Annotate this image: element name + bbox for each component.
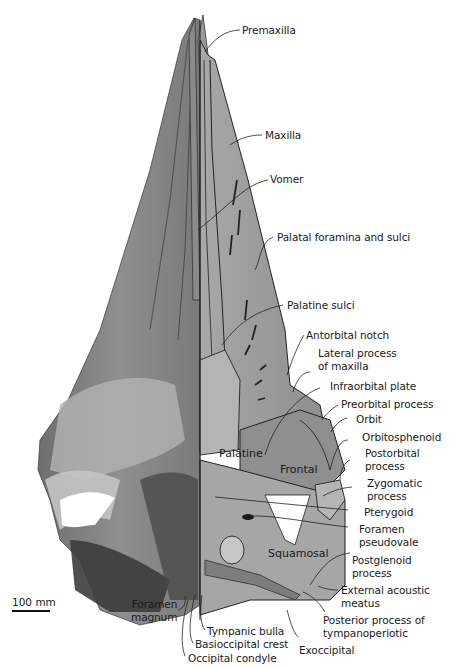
label-orbitosphenoid: Orbitosphenoid (362, 431, 441, 444)
label-vomer: Vomer (270, 173, 303, 186)
label-basioccipital-crest: Basioccipital crest (195, 638, 288, 651)
label-palatal-foramina: Palatal foramina and sulci (277, 231, 410, 244)
label-postorbital-process: Postorbital process (365, 447, 420, 472)
label-frontal: Frontal (280, 463, 318, 476)
label-pterygoid: Pterygoid (364, 506, 413, 519)
label-orbit: Orbit (356, 413, 382, 426)
label-premaxilla: Premaxilla (242, 24, 296, 37)
label-postglenoid-process: Postglenoid process (352, 554, 412, 579)
skull-diagram: Palatine Frontal Squamosal Premaxilla Ma… (0, 0, 455, 668)
label-external-acoustic-meatus: External acoustic meatus (341, 584, 430, 609)
illustration-right-half (189, 15, 345, 620)
label-foramen-pseudovale: Foramen pseudovale (359, 523, 418, 548)
label-foramen-magnum: Foramen magnum (131, 598, 177, 623)
label-squamosal: Squamosal (268, 547, 329, 560)
label-posterior-process: Posterior process of tympanoperiotic (323, 614, 425, 639)
label-exoccipital: Exoccipital (299, 644, 354, 657)
label-antorbital-notch: Antorbital notch (306, 329, 389, 342)
label-preorbital-process: Preorbital process (341, 398, 433, 411)
label-zygomatic-process: Zygomatic process (367, 477, 422, 502)
scale-bar (12, 610, 50, 612)
label-occipital-condyle: Occipital condyle (188, 652, 277, 665)
label-lateral-process: Lateral process of maxilla (318, 347, 397, 372)
label-maxilla: Maxilla (265, 129, 301, 142)
label-palatine: Palatine (219, 447, 263, 460)
scale-bar-label: 100 mm (12, 596, 56, 608)
label-tympanic-bulla: Tympanic bulla (207, 625, 284, 638)
label-palatine-sulci: Palatine sulci (287, 299, 354, 312)
photo-left-half (38, 18, 200, 625)
label-infraorbital-plate: Infraorbital plate (330, 380, 416, 393)
